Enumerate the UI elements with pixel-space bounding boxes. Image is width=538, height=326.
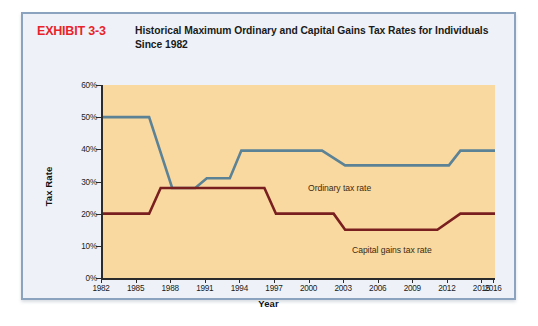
y-axis-tick-label: 10%	[67, 241, 97, 250]
x-axis-tick-label: 1985	[119, 284, 153, 293]
y-axis-tick-labels: 0%10%20%30%40%50%60%	[63, 85, 97, 278]
x-axis-tick-label: 2009	[395, 284, 429, 293]
x-axis-tick-label: 1997	[257, 284, 291, 293]
chart-container: Tax Rate 0%10%20%30%40%50%60% Ordinary t…	[23, 66, 514, 298]
y-axis-tick-label: 30%	[67, 177, 97, 186]
x-axis-tick-label: 1994	[222, 284, 256, 293]
x-axis-tick-labels: 1982198519881991199419972000200320062009…	[101, 284, 495, 296]
x-axis-tick-mark	[205, 278, 206, 283]
series-line	[103, 117, 495, 188]
x-axis-tick-label: 1988	[153, 284, 187, 293]
x-axis-tick-mark	[343, 278, 344, 283]
x-axis-tick-mark	[481, 278, 482, 283]
exhibit-panel: EXHIBIT 3-3 Historical Maximum Ordinary …	[21, 12, 516, 300]
x-axis-tick-mark	[309, 278, 310, 283]
exhibit-title: Historical Maximum Ordinary and Capital …	[135, 24, 490, 52]
x-axis-tick-mark	[136, 278, 137, 283]
y-axis-title-container: Tax Rate	[45, 85, 59, 278]
x-axis-tick-mark	[493, 278, 494, 283]
series-annotation-ordinary: Ordinary tax rate	[308, 183, 371, 193]
x-axis-tick-mark	[274, 278, 275, 283]
x-axis-tick-label: 1991	[188, 284, 222, 293]
y-axis-tick-label: 50%	[67, 113, 97, 122]
x-axis-tick-mark	[412, 278, 413, 283]
x-axis-tick-label: 2006	[361, 284, 395, 293]
x-axis-tick-label: 2012	[430, 284, 464, 293]
x-axis-title: Year	[23, 298, 514, 309]
series-line	[103, 188, 495, 230]
series-annotation-capital-gains: Capital gains tax rate	[352, 245, 432, 255]
exhibit-header: EXHIBIT 3-3 Historical Maximum Ordinary …	[37, 24, 500, 66]
x-axis-tick-mark	[101, 278, 102, 283]
exhibit-number-label: EXHIBIT 3-3	[37, 24, 106, 38]
x-axis-tick-label: 2000	[292, 284, 326, 293]
x-axis-tick-label: 2003	[326, 284, 360, 293]
x-axis-tick-label: 2016	[476, 284, 510, 293]
y-axis-tick-label: 40%	[67, 145, 97, 154]
plot-lines-svg	[103, 85, 495, 278]
x-axis-tick-label: 1982	[84, 284, 118, 293]
plot-area: Ordinary tax rate Capital gains tax rate	[101, 85, 495, 280]
y-axis-tick-label: 20%	[67, 209, 97, 218]
x-axis-tick-mark	[239, 278, 240, 283]
y-axis-tick-label: 0%	[67, 274, 97, 283]
x-axis-tick-mark	[378, 278, 379, 283]
y-axis-tick-label: 60%	[67, 81, 97, 90]
x-axis-tick-mark	[447, 278, 448, 283]
x-axis-tick-mark	[170, 278, 171, 283]
y-axis-title: Tax Rate	[43, 167, 54, 207]
